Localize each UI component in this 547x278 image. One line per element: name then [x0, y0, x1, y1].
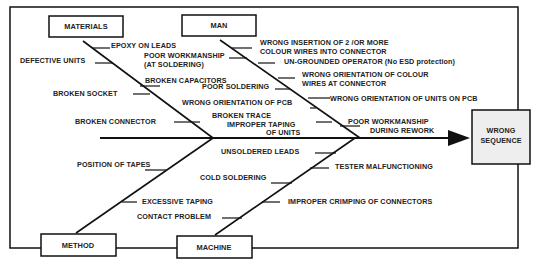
cause-wrong-orientation-units: WRONG ORIENTATION OF UNITS ON PCB: [330, 94, 478, 103]
cause-poor-workmanship-rework-2: DURING REWORK: [370, 126, 435, 135]
cause-poor-workmanship-soldering-2: (AT SOLDERING): [144, 60, 204, 69]
arrow-head-icon: [448, 130, 470, 146]
cause-broken-socket: BROKEN SOCKET: [53, 89, 118, 98]
category-label-machine: MACHINE: [196, 243, 231, 252]
cause-poor-workmanship-soldering-1: POOR WORKMANSHIP: [144, 51, 225, 60]
cause-tester-malfunctioning: TESTER MALFUNCTIONING: [335, 162, 433, 171]
cause-contact-problem: CONTACT PROBLEM: [137, 212, 211, 221]
cause-improper-taping-2: OF UNITS: [266, 128, 300, 137]
cause-wrong-orientation-wires-1: WRONG ORIENTATION OF COLOUR: [302, 70, 429, 79]
cause-position-of-tapes: POSITION OF TAPES: [77, 160, 151, 169]
cause-broken-connector: BROKEN CONNECTOR: [75, 117, 157, 126]
category-label-man: MAN: [210, 21, 227, 30]
cause-wrong-orientation-pcb: WRONG ORIENTATION OF PCB: [182, 98, 292, 107]
cause-unsoldered-leads: UNSOLDERED LEADS: [221, 147, 299, 156]
cause-poor-soldering: POOR SOLDERING: [202, 82, 270, 91]
category-label-materials: MATERIALS: [64, 22, 107, 31]
effect-label-line1: WRONG: [487, 126, 516, 135]
cause-ungrounded-operator: UN-GROUNDED OPERATOR (No ESD protection): [284, 57, 456, 66]
fishbone-diagram: WRONG SEQUENCE MATERIALS EPOXY ON LEADS …: [0, 0, 547, 278]
cause-wrong-insertion-1: WRONG INSERTION OF 2 /OR MORE: [260, 38, 389, 47]
cause-wrong-insertion-2: COLOUR WIRES INTO CONNECTOR: [260, 47, 387, 56]
cause-excessive-taping: EXCESSIVE TAPING: [142, 197, 213, 206]
cause-cold-soldering: COLD SOLDERING: [200, 173, 267, 182]
cause-improper-crimping: IMPROPER CRIMPING OF CONNECTORS: [288, 197, 432, 206]
effect-label-line2: SEQUENCE: [480, 136, 521, 145]
cause-broken-trace: BROKEN TRACE: [212, 111, 271, 120]
cause-poor-workmanship-rework-1: POOR WORKMANSHIP: [348, 117, 429, 126]
cause-defective-units: DEFECTIVE UNITS: [20, 56, 86, 65]
cause-wrong-orientation-wires-2: WIRES AT CONNECTOR: [302, 79, 387, 88]
cause-epoxy-on-leads: EPOXY ON LEADS: [111, 41, 176, 50]
category-label-method: METHOD: [62, 241, 95, 250]
